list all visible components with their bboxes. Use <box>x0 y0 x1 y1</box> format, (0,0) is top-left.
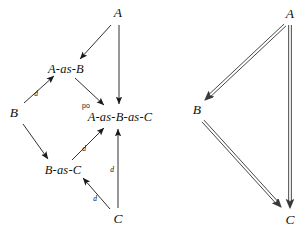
node-b: B <box>193 103 201 117</box>
node-a: A <box>286 7 294 21</box>
node-a: A <box>114 6 122 20</box>
node-c: C <box>113 212 122 226</box>
diagram-edges-layer <box>0 0 307 233</box>
node-b-as-c: B-as-C <box>45 164 82 177</box>
node-b: B <box>10 106 18 120</box>
edge-label-d-6: d <box>93 195 97 203</box>
node-c: C <box>285 213 294 227</box>
edge-b-to-c-stroke-a <box>202 122 276 204</box>
edge-label-d-5: d <box>82 145 86 153</box>
diagram-canvas: AA-as-BBA-as-B-as-CB-as-CC dpoddd ABC <box>0 0 307 233</box>
edge-a-to-b-stroke-a <box>208 24 284 95</box>
edge-b-to-b-as-c <box>23 124 48 159</box>
edge-a-to-a-as-b <box>80 25 111 59</box>
edge-b-to-c-stroke-b <box>204 120 278 202</box>
edge-label-po-3: po <box>82 102 90 109</box>
node-a-as-b-as-c: A-as-B-as-C <box>88 111 153 124</box>
edge-a-to-b-stroke-b <box>210 26 286 97</box>
edge-label-d-7: d <box>110 166 114 174</box>
node-a-as-b: A-as-B <box>48 63 84 76</box>
edge-b-to-a-as-b <box>24 76 54 103</box>
edge-label-d-2: d <box>34 90 38 98</box>
right-diagram-edges <box>202 24 291 208</box>
edge-b-as-c-to-a-as-b-as-c <box>72 128 104 160</box>
